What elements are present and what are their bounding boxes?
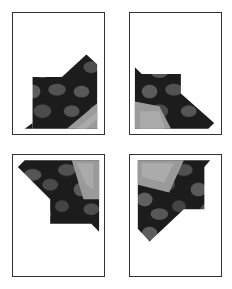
panel-top-left [12,12,105,135]
cropped-photo-bottom-right [130,155,221,276]
panel-top-right [129,12,222,135]
cropped-photo-top-right [130,13,221,134]
panel-bottom-left [12,154,105,277]
cropped-photo-bottom-left [13,155,104,276]
cropped-photo-top-left [13,13,104,134]
panel-bottom-right [129,154,222,277]
